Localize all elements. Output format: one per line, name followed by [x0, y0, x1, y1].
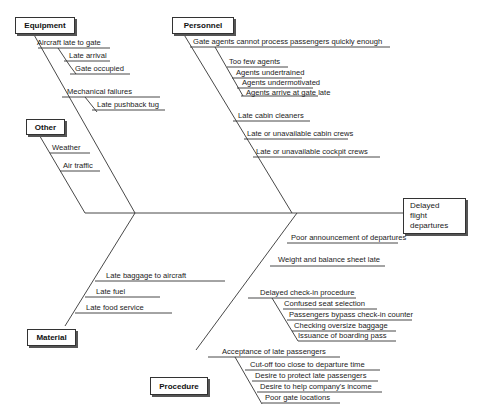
effect-line-3: departures — [410, 221, 459, 231]
cause-label: Late food service — [86, 303, 144, 312]
category-box-other: Other — [26, 119, 65, 135]
sub-cause-label: Confused seat selection — [284, 299, 365, 308]
cause-label: Gate agents cannot process passengers qu… — [193, 37, 382, 46]
sub-cause-label: Agents arrive at gate late — [246, 88, 330, 97]
cause-label: Mechanical failures — [67, 87, 132, 96]
sub-cause-label: Passengers bypass check-in counter — [289, 310, 413, 319]
cause-label: Late baggage to aircraft — [106, 271, 186, 280]
sub-cause-label: Gate occupied — [75, 64, 124, 73]
procedure-bone — [196, 213, 297, 350]
sub-cause-label: Desire to protect late passengers — [255, 371, 366, 380]
cause-label: Air traffic — [63, 161, 93, 170]
sub-cause-label: Late arrival — [69, 51, 107, 60]
sub-cause-label: Agents undertrained — [236, 68, 304, 77]
sub-cause-label: Checking oversize baggage — [294, 321, 388, 330]
sub-cause-label: Poor gate locations — [265, 393, 330, 402]
sub-cause-label: Issuance of boarding pass — [298, 331, 387, 340]
sub-cause-label: Cut-off too close to departure time — [250, 360, 365, 369]
cause-label: Late cabin cleaners — [238, 111, 304, 120]
effect-line-2: flight — [410, 211, 459, 221]
category-box-material: Material — [27, 329, 76, 346]
sub-cause-label: Late pushback tug — [97, 100, 159, 109]
cause-label: Delayed check-in procedure — [260, 288, 355, 297]
sub-cause-label: Desire to help company's income — [260, 382, 372, 391]
cause-label: Acceptance of late passengers — [222, 347, 326, 356]
cause-label: Late or unavailable cabin crews — [247, 129, 353, 138]
cause-label: Poor announcement of departures — [291, 233, 406, 242]
effect-box: Delayed flight departures — [403, 198, 466, 234]
sub-cause-label: Agents undermotivated — [242, 78, 320, 87]
cause-label: Weight and balance sheet late — [278, 255, 380, 264]
sub-cause-label: Too few agents — [229, 57, 280, 66]
cause-label: Aircraft late to gate — [37, 38, 101, 47]
category-box-equipment: Equipment — [15, 17, 75, 34]
category-box-personnel: Personnel — [172, 17, 234, 34]
category-box-procedure: Procedure — [150, 377, 208, 395]
cause-label: Weather — [52, 143, 81, 152]
cause-label: Late fuel — [96, 287, 125, 296]
effect-line-1: Delayed — [410, 201, 459, 211]
cause-label: Late or unavailable cockpit crews — [256, 147, 368, 156]
personnel-bone — [180, 28, 292, 213]
